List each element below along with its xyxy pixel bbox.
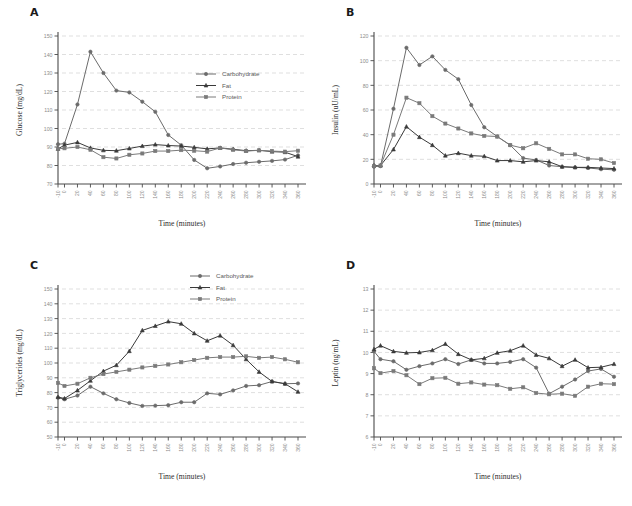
svg-text:120: 120 [455,190,461,199]
legend-item-protein[interactable]: Protein [190,295,236,302]
legend-label: Fat [222,82,231,89]
legend-label: Carbohydrate [216,272,254,279]
svg-text:220: 220 [520,190,526,199]
svg-text:60: 60 [100,190,106,196]
x-axis-label: Time (minutes) [475,472,522,481]
legend-item-protein[interactable]: Protein [196,93,242,100]
svg-text:11: 11 [363,328,368,334]
legend-item-fat[interactable]: Fat [190,284,225,291]
svg-text:130: 130 [44,316,53,322]
svg-text:90: 90 [47,144,53,150]
svg-text:40: 40 [363,132,369,138]
svg-text:0: 0 [366,181,369,187]
svg-text:160: 160 [165,190,171,199]
svg-text:20: 20 [390,190,396,196]
legend-label: Protein [222,93,242,100]
svg-text:260: 260 [230,443,236,452]
svg-text:80: 80 [47,163,53,169]
chart-d: 678910111213-100204060801001201401601802… [316,253,632,506]
svg-text:320: 320 [585,190,591,199]
svg-text:100: 100 [44,126,53,132]
svg-text:160: 160 [481,190,487,199]
y-axis-label: Leptin (ng/mL) [331,339,340,386]
svg-text:140: 140 [468,190,474,199]
svg-text:160: 160 [165,443,171,452]
svg-text:-10: -10 [55,443,61,450]
legend-label: Fat [216,284,225,291]
y-axis-label: Glucose (mg/dL) [15,83,24,136]
svg-text:40: 40 [87,443,93,449]
svg-text:120: 120 [139,443,145,452]
svg-text:200: 200 [507,443,513,452]
svg-text:360: 360 [295,190,301,199]
svg-text:120: 120 [44,331,53,337]
svg-text:100: 100 [442,190,448,199]
svg-text:320: 320 [269,443,275,452]
x-axis-label: Time (minutes) [475,219,522,228]
panel-b: B020406080100120-10020406080100120140160… [316,0,632,253]
x-axis: -100204060801001201401601802002202402602… [371,184,622,199]
series-carbohydrate [56,380,299,408]
svg-text:8: 8 [366,392,369,398]
svg-text:300: 300 [572,443,578,452]
chart-a: 708090100110120130140150-100204060801001… [0,0,316,253]
svg-text:20: 20 [74,190,80,196]
svg-text:40: 40 [403,443,409,449]
y-axis: 678910111213 [363,285,374,440]
svg-text:110: 110 [44,107,52,113]
svg-text:140: 140 [44,301,53,307]
legend-item-carbohydrate[interactable]: Carbohydrate [196,70,260,77]
svg-text:50: 50 [47,434,53,440]
series-protein [372,367,615,398]
svg-text:60: 60 [416,190,422,196]
legend: CarbohydrateFatProtein [190,272,254,302]
svg-text:9: 9 [366,371,369,377]
svg-text:0: 0 [61,190,67,193]
svg-text:280: 280 [559,190,565,199]
legend: CarbohydrateFatProtein [196,70,260,100]
svg-text:6: 6 [366,434,369,440]
svg-text:200: 200 [507,190,513,199]
svg-text:20: 20 [74,443,80,449]
svg-text:100: 100 [44,360,53,366]
y-axis: 020406080100120 [360,32,374,187]
series-carbohydrate [372,350,615,396]
svg-text:150: 150 [44,286,53,292]
svg-text:200: 200 [191,190,197,199]
panel-c: C5060708090100110120130140150-1002040608… [0,253,316,506]
x-axis: -100204060801001201401601802002202402602… [55,184,306,199]
legend-item-fat[interactable]: Fat [196,82,231,89]
svg-text:130: 130 [44,70,53,76]
svg-text:160: 160 [481,443,487,452]
svg-text:280: 280 [243,443,249,452]
svg-text:180: 180 [178,190,184,199]
svg-text:100: 100 [126,443,132,452]
y-axis-label: Triglycerides (mg/dL) [15,329,24,397]
svg-text:70: 70 [47,181,53,187]
svg-text:220: 220 [520,443,526,452]
svg-text:140: 140 [44,52,53,58]
x-axis: -100204060801001201401601802002202402602… [55,437,306,452]
svg-text:140: 140 [468,443,474,452]
svg-text:100: 100 [360,58,369,64]
legend-item-carbohydrate[interactable]: Carbohydrate [190,272,254,279]
svg-text:80: 80 [429,190,435,196]
figure-root: A708090100110120130140150-10020406080100… [0,0,632,506]
svg-text:360: 360 [611,443,617,452]
svg-text:120: 120 [44,89,53,95]
svg-text:140: 140 [152,443,158,452]
svg-text:0: 0 [377,443,383,446]
svg-text:-10: -10 [371,443,377,450]
svg-text:180: 180 [178,443,184,452]
panel-letter-a: A [30,6,39,19]
svg-text:70: 70 [47,405,53,411]
svg-text:180: 180 [494,190,500,199]
svg-text:13: 13 [363,286,369,292]
svg-text:220: 220 [204,190,210,199]
series-fat [372,125,616,171]
series-carbohydrate [372,46,615,172]
svg-text:80: 80 [47,390,53,396]
svg-text:90: 90 [47,375,53,381]
svg-text:80: 80 [113,190,119,196]
y-axis: 5060708090100110120130140150 [44,285,58,440]
